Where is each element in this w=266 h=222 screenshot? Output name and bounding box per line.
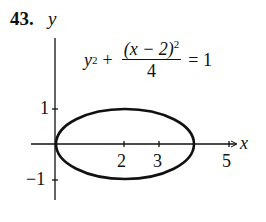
y-tick-label-neg1: −1: [26, 169, 45, 190]
y-tick-label-1: 1: [40, 98, 49, 119]
x-axis-label: x: [240, 133, 248, 154]
x-tick-label-2: 2: [117, 151, 126, 172]
x-tick-label-3: 3: [153, 151, 162, 172]
x-tick-label-5: 5: [222, 151, 231, 172]
